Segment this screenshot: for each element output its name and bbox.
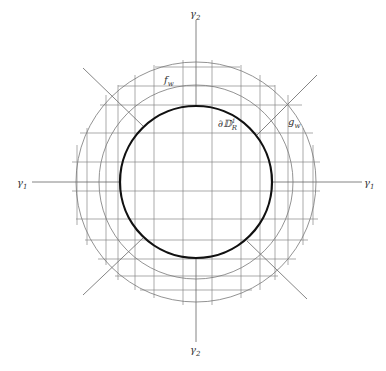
diagram-canvas <box>0 0 386 371</box>
diagonal-line <box>83 68 143 126</box>
diagonal-line <box>83 238 143 295</box>
label-gamma2-top: γ2 <box>190 9 200 22</box>
label-gamma1-right: γ1 <box>364 178 374 191</box>
middle-circle <box>99 85 293 279</box>
boundary-circle <box>120 106 272 258</box>
gamma1-right-sub: 1 <box>370 183 374 191</box>
gamma2-top-sub: 2 <box>196 14 200 22</box>
axis-lines <box>32 20 362 342</box>
f-w-sub: w <box>168 80 174 88</box>
gamma1-left-sub: 1 <box>23 183 27 191</box>
label-gamma2-bottom: γ2 <box>190 345 200 358</box>
g-w-sub: w <box>294 122 300 130</box>
boundary-sub: R <box>232 124 237 132</box>
gamma2-bottom-sub: 2 <box>196 350 200 358</box>
boundary-sup: 1 <box>232 117 236 124</box>
label-f-w: fw <box>164 75 174 88</box>
label-gamma1-left: γ1 <box>17 178 27 191</box>
label-g-w: gw <box>288 117 300 130</box>
label-boundary: ∂𝔻1R <box>218 118 237 132</box>
boundary-base: ∂𝔻 <box>218 118 232 129</box>
